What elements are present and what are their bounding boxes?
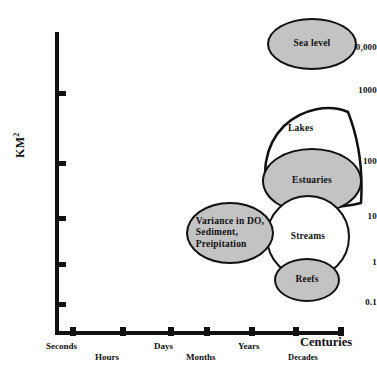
bubble-variance-do-sediment-precipitation[interactable]: Variance in DO, Sediment, Preipitation: [186, 202, 274, 264]
y-tick-label-0.1: 0.1: [329, 297, 377, 307]
y-tick-label-1000: 1000: [329, 85, 377, 95]
x-tick-days: [168, 327, 174, 336]
chart-canvas: KM2 10,000 1000 100 10 1 0.1 Seconds Hou…: [0, 0, 377, 373]
bubble-label-variance-line2: Sediment,: [196, 227, 238, 237]
y-tick-100: [57, 161, 66, 166]
y-axis-title: KM2: [12, 132, 28, 158]
y-axis-title-base: KM: [13, 137, 27, 158]
x-tick-label-days: Days: [154, 341, 173, 352]
x-tick-years: [249, 327, 255, 336]
bubble-label-estuaries: Estuaries: [288, 175, 336, 187]
x-tick-decades: [293, 327, 299, 336]
x-tick-label-centuries: Centuries: [300, 337, 352, 348]
y-axis-line: [55, 32, 59, 335]
x-tick-label-years: Years: [238, 341, 260, 352]
y-tick-1000: [57, 91, 66, 96]
bubble-sea-level[interactable]: Sea level: [267, 18, 357, 70]
bubble-label-reefs: Reefs: [291, 274, 322, 286]
y-axis-title-exponent: 2: [12, 132, 21, 136]
x-tick-seconds: [70, 327, 76, 336]
bubble-label-lakes: Lakes: [288, 123, 313, 133]
x-tick-months: [204, 327, 210, 336]
bubble-label-variance-line1: Variance in DO,: [196, 216, 264, 226]
x-tick-label-hours: Hours: [95, 352, 119, 363]
bubble-label-sea-level: Sea level: [290, 38, 335, 50]
y-tick-10: [57, 216, 66, 221]
x-tick-hours: [120, 327, 126, 336]
bubble-label-variance-line3: Preipitation: [196, 239, 247, 249]
bubble-label-streams: Streams: [287, 231, 329, 243]
x-tick-label-decades: Decades: [288, 352, 318, 363]
y-tick-0.1: [57, 302, 66, 307]
bubble-label-variance: Variance in DO, Sediment, Preipitation: [190, 216, 270, 251]
y-tick-1: [57, 262, 66, 267]
x-tick-label-seconds: Seconds: [46, 341, 77, 352]
x-tick-label-months: Months: [186, 352, 216, 363]
bubble-reefs[interactable]: Reefs: [274, 258, 340, 302]
